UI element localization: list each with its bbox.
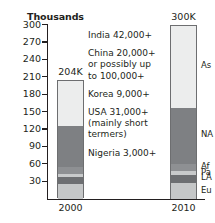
y-axis-tick: [42, 41, 47, 42]
y-axis-tick-label: 240: [1, 54, 41, 64]
y-axis-tick: [42, 24, 47, 25]
annotation-line: China 20,000+: [88, 48, 166, 59]
y-axis-tick-label: 270: [1, 37, 41, 47]
stacked-bar-chart: Thousands 300270240210180150120906030 20…: [0, 0, 215, 223]
y-axis-tick-label: 120: [1, 124, 41, 134]
bar-segment-na: [58, 126, 83, 167]
annotation-line: India 42,000+: [88, 30, 166, 41]
bar-segment-eu: [171, 183, 196, 200]
y-axis-tick-label: 180: [1, 89, 41, 99]
bar-segment-af: [171, 164, 196, 172]
bar-segment-af: [58, 167, 83, 174]
y-axis-line: [47, 24, 48, 199]
y-axis-tick: [42, 111, 47, 112]
bar-total-label-2000: 204K: [49, 67, 92, 77]
y-axis-tick-label: 300: [1, 20, 41, 30]
bar-segment-eu: [58, 184, 83, 200]
y-axis-tick-label: 210: [1, 72, 41, 82]
y-axis-tick: [42, 94, 47, 95]
bar-segment-as: [171, 26, 196, 109]
annotation-china: China 20,000+or possibly upto 100,000+: [88, 48, 166, 82]
annotation-line: Nigeria 3,000+: [88, 148, 166, 159]
bar-2010: [170, 25, 197, 199]
x-axis-label-2000: 2000: [46, 203, 95, 213]
y-axis-tick-label: 150: [1, 107, 41, 117]
annotation-nigeria: Nigeria 3,000+: [88, 148, 166, 159]
y-axis-tick: [42, 128, 47, 129]
y-axis-tick: [42, 76, 47, 77]
bar-2000: [57, 80, 84, 198]
bar-total-label-2010: 300K: [162, 12, 205, 22]
annotation-usa: USA 31,000+(mainly shorttermers): [88, 107, 166, 141]
bar-segment-la: [171, 175, 196, 183]
y-axis-tick-label: 90: [1, 141, 41, 151]
series-label-la: LA: [201, 173, 212, 182]
y-axis-tick: [42, 59, 47, 60]
annotation-line: USA 31,000+: [88, 107, 166, 118]
series-label-as: As: [201, 61, 211, 70]
annotation-india: India 42,000+: [88, 30, 166, 41]
annotation-line: or possibly up: [88, 59, 166, 70]
annotation-korea: Korea 9,000+: [88, 89, 166, 100]
annotation-line: to 100,000+: [88, 71, 166, 82]
bar-segment-la: [58, 177, 83, 184]
y-axis-tick: [42, 146, 47, 147]
y-axis-tick-label: 60: [1, 159, 41, 169]
annotation-line: (mainly short: [88, 118, 166, 129]
annotation-line: termers): [88, 129, 166, 140]
annotation-line: Korea 9,000+: [88, 89, 166, 100]
series-label-eu: Eu: [201, 186, 212, 195]
y-axis-tick-label: 30: [1, 176, 41, 186]
bar-segment-pa: [171, 171, 196, 175]
bar-segment-pa: [58, 174, 83, 177]
annotation-block: India 42,000+China 20,000+or possibly up…: [88, 30, 166, 159]
series-label-na: NA: [201, 130, 213, 139]
bar-segment-na: [171, 108, 196, 163]
bar-segment-as: [58, 81, 83, 126]
y-axis-tick: [42, 163, 47, 164]
y-axis-tick: [42, 181, 47, 182]
x-axis-label-2010: 2010: [159, 203, 208, 213]
